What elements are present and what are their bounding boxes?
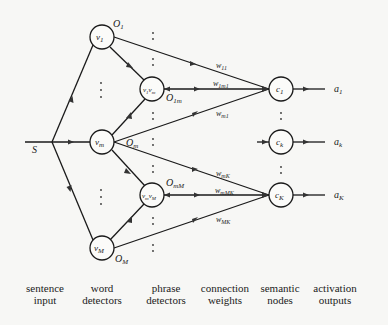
weight-label-wMK: wMK <box>216 215 231 225</box>
output-O1: O1 <box>113 18 124 31</box>
output-OmM: OmM <box>166 177 185 190</box>
weight-wMK <box>114 195 269 248</box>
weight-wm1 <box>114 89 269 142</box>
column-label-activation-outputs: activationoutputs <box>300 282 370 306</box>
weight-label-wm1: wm1 <box>216 109 229 119</box>
edge-v1-phrase <box>110 47 144 80</box>
weight-label-w1m1: w1m1 <box>213 79 229 89</box>
weight-label-wmK: wmK <box>216 169 231 179</box>
weight-label-w11: w11 <box>216 61 227 71</box>
arrow-icon <box>127 216 132 223</box>
column-labels: sentenceinput worddetectors phrasedetect… <box>0 282 388 322</box>
activation-a1: a1 <box>334 83 343 96</box>
activation-aK: aK <box>334 189 344 202</box>
arrow-icon <box>126 112 132 119</box>
arrow-icon <box>67 185 72 192</box>
column-label-word-detectors: worddetectors <box>67 282 137 306</box>
input-branch-v1 <box>52 45 93 142</box>
network-diagram: v1 vm vM v1vm vmvM c1 ck cK O1 Om OM O1m… <box>0 0 388 325</box>
input-label-S: S <box>32 144 37 155</box>
arrow-icon <box>68 140 74 145</box>
output-O1m: O1m <box>166 92 182 105</box>
input-branch-vM <box>52 142 93 240</box>
output-OM: OM <box>115 253 129 266</box>
weight-label-wmMK: wmMK <box>215 186 235 196</box>
edge-vm-phrase2 <box>112 150 145 186</box>
activation-ak: ak <box>334 136 343 149</box>
